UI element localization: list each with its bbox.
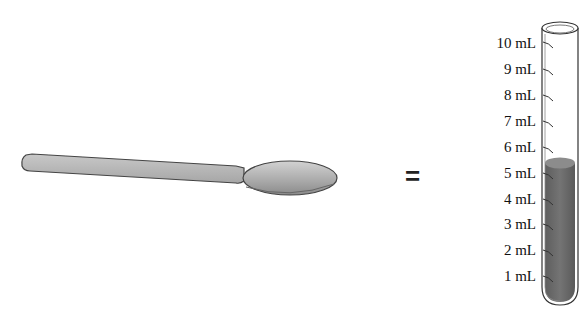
scale-label-1ml: 1 mL xyxy=(466,269,536,284)
scale-label-3ml: 3 mL xyxy=(466,217,536,232)
scale-label-4ml: 4 mL xyxy=(466,192,536,207)
scale-label-2ml: 2 mL xyxy=(466,243,536,258)
spoon-icon xyxy=(22,154,337,195)
scale-label-6ml: 6 mL xyxy=(466,140,536,155)
scale-label-9ml: 9 mL xyxy=(466,62,536,77)
scale-label-8ml: 8 mL xyxy=(466,88,536,103)
equals-sign: = xyxy=(405,163,420,189)
scale-label-10ml: 10 mL xyxy=(466,36,536,51)
test-tube-icon xyxy=(542,22,578,305)
scale-label-5ml: 5 mL xyxy=(466,166,536,181)
scale-label-7ml: 7 mL xyxy=(466,114,536,129)
spoon-equals-test-tube-diagram: = 10 mL 9 mL 8 mL 7 mL 6 mL 5 mL 4 mL 3 … xyxy=(0,0,588,311)
